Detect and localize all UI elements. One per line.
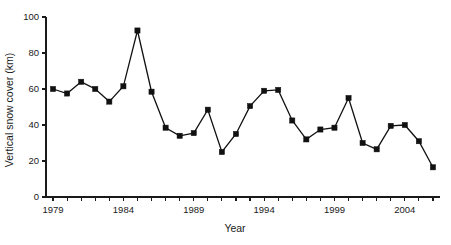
- data-point-marker: [318, 127, 323, 132]
- data-point-marker: [79, 79, 84, 84]
- data-point-marker: [135, 28, 140, 33]
- data-point-marker: [304, 137, 309, 142]
- x-tick-label: 1979: [42, 204, 63, 215]
- data-point-marker: [191, 131, 196, 136]
- y-tick-label: 40: [28, 119, 39, 130]
- data-point-marker: [332, 125, 337, 130]
- x-tick-label: 1994: [254, 204, 275, 215]
- data-point-marker: [163, 125, 168, 130]
- data-point-marker: [219, 149, 224, 154]
- x-axis-title: Year: [224, 222, 246, 234]
- y-tick-label: 100: [23, 11, 39, 22]
- data-point-marker: [374, 147, 379, 152]
- data-point-marker: [360, 140, 365, 145]
- data-point-marker: [276, 87, 281, 92]
- y-axis-title: Vertical snow cover (km): [3, 53, 15, 167]
- data-point-marker: [290, 118, 295, 123]
- data-point-marker: [93, 86, 98, 91]
- y-tick-label: 20: [28, 155, 39, 166]
- x-tick-label: 1999: [324, 204, 345, 215]
- data-point-marker: [107, 99, 112, 104]
- data-point-marker: [205, 107, 210, 112]
- data-point-marker: [121, 84, 126, 89]
- data-point-marker: [346, 95, 351, 100]
- data-point-marker: [247, 104, 252, 109]
- line-chart-svg: 020406080100 197919841989199419992004 Ve…: [0, 0, 451, 245]
- data-point-marker: [233, 131, 238, 136]
- data-point-marker: [149, 89, 154, 94]
- y-axis: 020406080100: [23, 11, 46, 202]
- data-point-marker: [50, 86, 55, 91]
- x-tick-label: 2004: [394, 204, 415, 215]
- data-point-marker: [402, 122, 407, 127]
- data-point-marker: [262, 88, 267, 93]
- y-tick-label: 80: [28, 47, 39, 58]
- chart-figure: 020406080100 197919841989199419992004 Ve…: [0, 0, 451, 245]
- data-series-snow-cover: [50, 28, 435, 170]
- data-point-marker: [416, 139, 421, 144]
- x-tick-label: 1989: [183, 204, 204, 215]
- y-tick-label: 60: [28, 83, 39, 94]
- x-tick-label: 1984: [113, 204, 134, 215]
- data-point-marker: [177, 133, 182, 138]
- data-point-marker: [65, 91, 70, 96]
- data-point-marker: [388, 123, 393, 128]
- x-axis: 197919841989199419992004: [42, 197, 440, 215]
- data-point-marker: [430, 165, 435, 170]
- y-tick-label: 0: [34, 191, 39, 202]
